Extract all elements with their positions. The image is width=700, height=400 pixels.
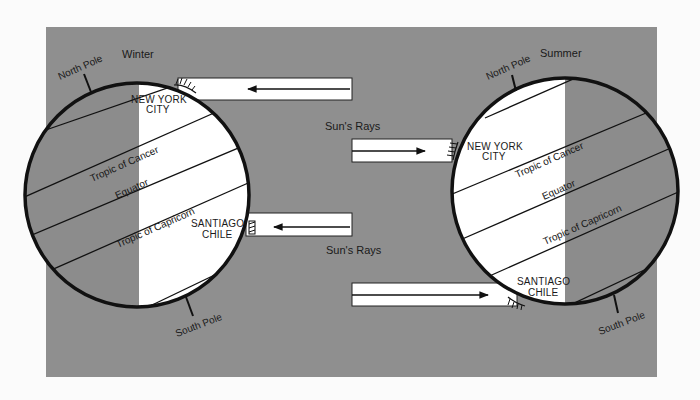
ray-band-summer-north — [352, 139, 452, 162]
suns-rays-label-lower: Sun's Rays — [326, 244, 382, 256]
diagram-canvas: Winter North Pole South Pole NEW YORK CI… — [0, 0, 700, 400]
ray-band-winter-north — [178, 78, 352, 100]
ray-band-winter-south — [246, 213, 352, 236]
winter-city-south-line1: SANTIAGO — [191, 218, 244, 229]
winter-season-label: Winter — [122, 48, 154, 60]
winter-city-south-line2: CHILE — [202, 229, 233, 240]
summer-season-label: Summer — [540, 47, 582, 59]
seasons-diagram: Winter North Pole South Pole NEW YORK CI… — [0, 0, 700, 400]
suns-rays-label-upper: Sun's Rays — [325, 120, 381, 132]
santiago-marker — [249, 221, 255, 234]
summer-city-south-line2: CHILE — [528, 287, 559, 298]
winter-city-north-line2: CITY — [146, 104, 170, 115]
summer-city-south-line1: SANTIAGO — [517, 276, 570, 287]
ray-band-summer-south — [352, 283, 517, 306]
summer-city-north-line2: CITY — [482, 151, 506, 162]
